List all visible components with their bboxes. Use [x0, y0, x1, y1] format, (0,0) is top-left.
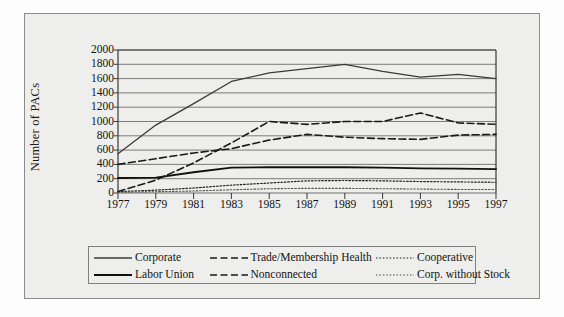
line-style-swatch-icon: [209, 253, 249, 263]
legend-row: Corporate Trade/Membership Health Cooper…: [93, 249, 471, 266]
legend-item-trade-membership-health: Trade/Membership Health: [209, 249, 375, 266]
legend-item-corp-without-stock: Corp. without Stock: [375, 266, 471, 283]
legend-label: Nonconnected: [251, 269, 317, 281]
x-axis-tick-label: 1997: [473, 198, 519, 210]
figure-canvas: Number of PACs 0200400600800100012001400…: [0, 0, 564, 317]
legend-label: Trade/Membership Health: [251, 252, 372, 264]
line-style-swatch-icon: [375, 270, 415, 280]
legend-item-cooperative: Cooperative: [375, 249, 471, 266]
line-style-swatch-icon: [375, 253, 415, 263]
x-axis-tick-labels: 1977197919811983198519871989199119931995…: [0, 198, 564, 216]
line-style-swatch-icon: [93, 253, 133, 263]
legend-label: Corporate: [135, 252, 181, 264]
line-style-swatch-icon: [93, 270, 133, 280]
legend-label: Corp. without Stock: [417, 269, 510, 281]
legend-label: Cooperative: [417, 252, 473, 264]
chart-legend: Corporate Trade/Membership Health Cooper…: [88, 246, 476, 284]
legend-item-labor-union: Labor Union: [93, 266, 209, 283]
line-style-swatch-icon: [209, 270, 249, 280]
legend-item-nonconnected: Nonconnected: [209, 266, 375, 283]
legend-item-corporate: Corporate: [93, 249, 209, 266]
legend-row: Labor Union Nonconnected Corp. without S…: [93, 266, 471, 283]
legend-label: Labor Union: [135, 269, 194, 281]
